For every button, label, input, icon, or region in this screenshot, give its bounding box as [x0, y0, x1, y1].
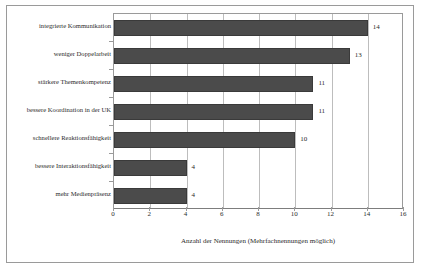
y-axis-tick-mark [109, 125, 113, 126]
x-axis-tick-label: 14 [363, 211, 370, 218]
bar [114, 48, 350, 65]
x-axis-tick-label: 4 [184, 211, 188, 218]
chart-figure: integrierte Kommunikation weniger Doppel… [0, 0, 421, 270]
bar-value-label: 4 [192, 192, 196, 199]
y-axis-label-1: weniger Doppelarbeit [6, 51, 111, 58]
x-axis-title: Anzahl der Nennungen (Mehrfachnennungen … [113, 238, 403, 246]
y-axis-label-6: mehr Medienpräsenz [6, 191, 111, 198]
x-axis-tick-label: 0 [111, 211, 115, 218]
bar [114, 132, 295, 149]
bar-row: 14 [114, 20, 402, 37]
bar [114, 188, 187, 205]
x-axis-tick-label: 12 [327, 211, 334, 218]
bar-value-label: 11 [318, 108, 325, 115]
x-axis-ticks: 0246810121416 [113, 211, 403, 225]
y-axis-label-2: stärkere Themenkompetenz [6, 79, 111, 86]
bar-row: 11 [114, 104, 402, 121]
x-axis-tick-label: 10 [291, 211, 298, 218]
bar-value-label: 10 [300, 136, 307, 143]
plot-area: 14 13 11 11 10 4 [113, 13, 403, 209]
y-axis-tick-mark [109, 41, 113, 42]
y-axis-label-0: integrierte Kommunikation [6, 23, 111, 30]
y-axis-tick-mark [109, 97, 113, 98]
bar-value-label: 4 [192, 164, 196, 171]
bar-row: 4 [114, 160, 402, 177]
bar [114, 76, 313, 93]
y-axis-category-labels: integrierte Kommunikation weniger Doppel… [6, 13, 111, 209]
bar [114, 104, 313, 121]
x-axis-tick-label: 8 [256, 211, 260, 218]
bar-value-label: 11 [318, 80, 325, 87]
bar-row: 11 [114, 76, 402, 93]
bar-row: 13 [114, 48, 402, 65]
bar-value-label: 13 [355, 52, 362, 59]
x-axis-tick-label: 16 [400, 211, 407, 218]
y-axis-tick-mark [109, 69, 113, 70]
bar [114, 20, 368, 37]
bar [114, 160, 187, 177]
y-axis-label-4: schnellere Reaktionsfähigkeit [6, 135, 111, 142]
bar-row: 10 [114, 132, 402, 149]
y-axis-label-3: bessere Koordination in der UK [6, 107, 111, 114]
bar-value-label: 14 [373, 24, 380, 31]
x-axis-tick-label: 2 [148, 211, 152, 218]
y-axis-label-5: bessere Interaktionsfähigkeit [6, 163, 111, 170]
bar-row: 4 [114, 188, 402, 205]
y-axis-tick-mark [109, 181, 113, 182]
x-axis-tick-label: 6 [220, 211, 224, 218]
y-axis-tick-mark [109, 153, 113, 154]
bar-series: 14 13 11 11 10 4 [114, 14, 402, 208]
